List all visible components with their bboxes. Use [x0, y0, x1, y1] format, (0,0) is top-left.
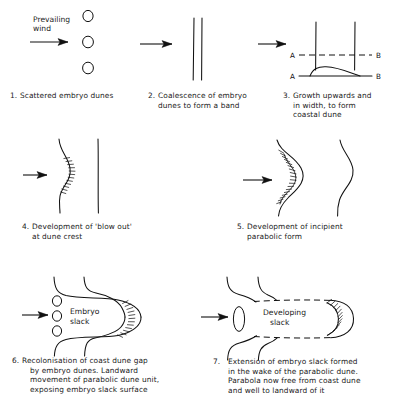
parabola-nose-hachures-7 — [327, 299, 342, 335]
section-label-a-bottom: A — [290, 72, 295, 81]
inner-coast-arm-upper — [258, 277, 277, 301]
blowout-front-curve — [59, 139, 70, 213]
caption-3-line-3: coastal dune — [293, 110, 342, 119]
caption-5-line-2: parabolic form — [247, 232, 302, 241]
parabola-dashed-lower-arm — [254, 337, 332, 339]
caption-6-line-2: by embryo dunes. Landward — [30, 366, 138, 375]
caption-5: 5. Development of incipient parabolic fo… — [237, 222, 343, 241]
caption-6: 6. Recolonisation of coast dune gap by e… — [12, 356, 159, 394]
parabola-nose-hachures — [118, 301, 135, 338]
caption-2-number: 2. — [148, 91, 155, 100]
parabola-outer-nose — [54, 317, 141, 356]
embryo-slack-label-line2: slack — [70, 317, 90, 326]
dune-band-line-left — [193, 18, 194, 80]
section-label-a-top: A — [290, 51, 295, 60]
caption-7: 7. Extension of embryo slack formed in t… — [213, 357, 361, 395]
coast-dune-upper-arm — [227, 277, 256, 302]
caption-6-line-4: exposing embryo slack surface — [30, 385, 148, 394]
caption-1-line-1: Scattered embryo dunes — [20, 91, 114, 100]
caption-4-line-1: Development of 'blow out' — [32, 222, 132, 231]
embryo-slack-label-line1: Embryo — [70, 307, 100, 316]
parabolic-inner-curve — [280, 154, 296, 204]
prevailing-wind-label-line1: Prevailing — [33, 15, 70, 24]
caption-6-number: 6. — [12, 356, 19, 365]
caption-3-line-1: Growth upwards and — [293, 91, 372, 100]
panel-3-growth-coastal-dune: A B A B — [258, 22, 381, 81]
panel-4-blow-out — [23, 139, 98, 213]
wind-arrow-3 — [258, 41, 286, 48]
caption-5-line-1: Development of incipient — [247, 222, 343, 231]
developing-slack-label-line2: slack — [270, 318, 290, 327]
section-label-b-top: B — [376, 51, 381, 60]
embryo-dune-oval — [233, 307, 244, 332]
embryo-dune-circle — [83, 62, 94, 74]
wind-arrow-2 — [140, 41, 172, 48]
caption-3-line-2: in width, to form — [293, 101, 356, 110]
panel-6-recolonisation: Embryo slack — [22, 277, 141, 356]
caption-7-line-1: Extension of embryo slack formed — [228, 357, 358, 366]
caption-2-line-1: Coalescence of embryo — [158, 91, 247, 100]
caption-2: 2. Coalescence of embryo dunes to form a… — [148, 91, 247, 110]
caption-4-line-2: at dune crest — [32, 232, 82, 241]
dune-evolution-diagram: Prevailing wind A B A B — [0, 0, 404, 410]
caption-2-line-2: dunes to form a band — [158, 101, 240, 110]
dune-profile-curve — [310, 67, 360, 76]
panel-5-incipient-parabolic — [243, 140, 353, 216]
caption-7-line-3: Parabola now free from coast dune — [228, 376, 361, 385]
embryo-dune-circle — [52, 326, 61, 336]
panel-1-scattered-embryo-dunes: Prevailing wind — [30, 10, 93, 73]
caption-6-line-3: movement of parabolic dune unit, — [30, 375, 159, 384]
caption-7-line-2: in the wake of the parabolic dune. — [228, 367, 358, 376]
embryo-dune-circle — [83, 10, 93, 21]
caption-3: 3. Growth upwards and in width, to form … — [283, 91, 372, 119]
caption-4-number: 4. — [22, 222, 29, 231]
caption-4: 4. Development of 'blow out' at dune cre… — [22, 222, 132, 241]
caption-7-line-4: and well to landward of it — [228, 386, 325, 395]
developing-slack-label-line1: Developing — [263, 308, 306, 317]
wind-arrow-1 — [30, 39, 68, 46]
embryo-dune-circle — [52, 311, 61, 321]
embryo-dune-circle — [83, 36, 94, 48]
prevailing-wind-label-line2: wind — [33, 24, 51, 33]
parabola-nose-inner — [327, 303, 338, 335]
section-label-b-bottom: B — [376, 72, 381, 81]
wind-arrow-7 — [201, 314, 228, 321]
caption-7-number: 7. — [213, 357, 220, 366]
panel-2-coalescence-band — [140, 18, 202, 80]
caption-1-number: 1. — [10, 91, 17, 100]
parabolic-rear-curve — [338, 140, 354, 216]
wind-arrow-4 — [23, 172, 47, 179]
caption-6-line-1: Recolonisation of coast dune gap — [22, 356, 148, 365]
caption-1: 1. Scattered embryo dunes — [10, 91, 114, 100]
panel-7-extension-slack: Developing slack — [201, 277, 354, 360]
caption-3-number: 3. — [283, 91, 290, 100]
wind-arrow-5 — [243, 177, 272, 184]
parabola-dashed-upper-arm — [254, 300, 332, 302]
caption-5-number: 5. — [237, 222, 244, 231]
wind-arrow-6 — [22, 312, 48, 319]
embryo-dune-circle — [52, 296, 61, 306]
